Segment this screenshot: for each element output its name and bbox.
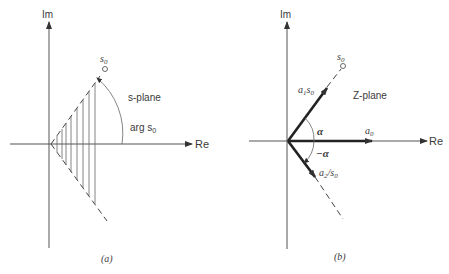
vec-a0-label: a0 — [365, 125, 374, 138]
caption-a: (a) — [101, 253, 113, 265]
vec-a1s0-label: a1s0 — [298, 84, 314, 97]
lower-wedge-line — [51, 144, 107, 221]
im-axis-label: Im — [280, 9, 291, 20]
point-s0-marker — [341, 64, 346, 69]
lower-ray-dashed — [315, 177, 343, 219]
upper-ray-dashed — [327, 69, 341, 87]
vec-a2s0-label: a2/s0 — [319, 167, 338, 180]
point-s0-label: s0 — [100, 53, 108, 66]
alpha-label: α — [317, 125, 324, 137]
panel-b: Im Re s0 a1s0 Z-plane α a0 −α a2/s0 (b) — [249, 9, 443, 263]
re-axis-label: Re — [195, 138, 209, 150]
caption-b: (b) — [334, 251, 346, 263]
upper-wedge-line — [51, 76, 100, 144]
point-s0-marker — [103, 67, 108, 72]
arg-s0-label: arg s0 — [130, 122, 156, 134]
re-axis-label: Re — [429, 135, 443, 147]
im-axis-label: Im — [42, 9, 53, 20]
vector-a2-over-s0 — [288, 141, 315, 177]
point-s0-label: s0 — [337, 51, 345, 64]
s-plane-label: s-plane — [128, 92, 161, 103]
z-plane-label: Z-plane — [353, 90, 387, 101]
panel-a: Im Re s0 s-plane arg s0 (a) — [10, 9, 209, 265]
arg-arc — [97, 78, 123, 144]
complex-plane-figure: Im Re s0 s-plane arg s0 (a) Im Re — [0, 0, 449, 274]
neg-alpha-label: −α — [316, 147, 330, 159]
alpha-arc — [305, 118, 314, 141]
neg-alpha-arc — [304, 141, 314, 163]
